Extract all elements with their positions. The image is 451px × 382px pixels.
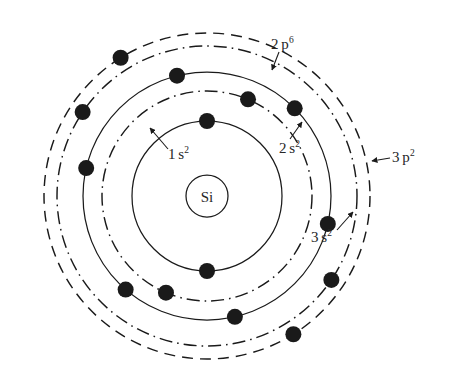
shell-label-3s2: 3s2 (311, 229, 332, 246)
bohr-atom-diagram: Si (0, 0, 451, 382)
shell-label-base: 2 (271, 36, 279, 52)
electron-dot-2p6-6 (78, 160, 94, 176)
shell-label-orbital: p (281, 36, 289, 52)
figure-caption (0, 373, 451, 382)
electron-dot-2p6-1 (169, 68, 185, 84)
shell-label-exponent: 2 (327, 228, 332, 238)
shell-label-2s2: 2s2 (279, 140, 300, 157)
shell-label-1s2: 1s2 (168, 146, 189, 163)
electron-dot-2s2-1 (240, 91, 256, 107)
electron-dot-2s2-2 (158, 285, 174, 301)
shell-label-exponent: 2 (295, 139, 300, 149)
electron-dot-3s2-1 (75, 104, 91, 120)
shell-label-base: 2 (279, 140, 287, 156)
electron-dot-2p6-2 (287, 100, 303, 116)
leader-line-2s2 (290, 122, 302, 139)
shell-label-3p2: 3p2 (392, 149, 415, 166)
shell-label-orbital: p (402, 149, 410, 165)
electron-dot-2p6-4 (227, 309, 243, 325)
electron-dot-1s2-1 (199, 113, 215, 129)
leader-line-3s2 (337, 212, 353, 230)
shell-label-exponent: 2 (184, 145, 189, 155)
nucleus-label: Si (201, 189, 214, 205)
electron-dot-3p2-2 (285, 326, 301, 342)
shell-label-base: 3 (311, 229, 319, 245)
nucleus-group: Si (186, 175, 228, 217)
shell-label-exponent: 6 (289, 35, 294, 45)
shell-label-2p6: 2p6 (271, 36, 294, 53)
electron-dot-2p6-5 (118, 282, 134, 298)
leader-line-3p2 (372, 158, 390, 161)
electron-dot-3p2-1 (113, 50, 129, 66)
electron-dot-3s2-2 (323, 272, 339, 288)
shell-label-exponent: 2 (410, 148, 415, 158)
electron-dot-1s2-2 (199, 263, 215, 279)
leader-lines-group (150, 52, 390, 230)
leader-line-1s2 (150, 128, 168, 149)
shell-label-base: 3 (392, 149, 400, 165)
shell-label-base: 1 (168, 146, 176, 162)
